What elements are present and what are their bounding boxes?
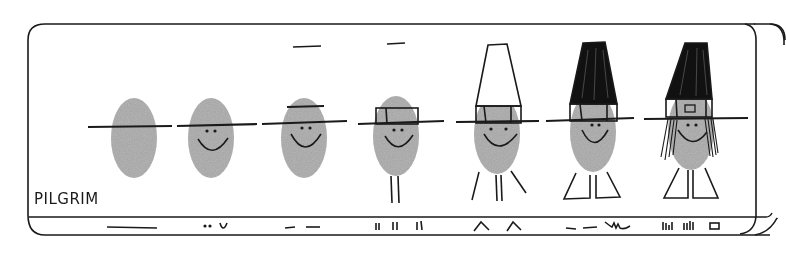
legend-step-2 [203,223,227,228]
legend-step-5 [474,222,521,231]
step-1-figure [111,98,157,178]
step-6-shoes [564,172,620,199]
legend-strip [107,221,719,231]
step-7-shoes [664,168,718,198]
step-2-brim [177,124,257,126]
step-5-brim [456,121,539,122]
title-label: PILGRIM [34,188,99,208]
step-7-brim [644,118,748,119]
step-5-legs [472,171,526,201]
step-3-floating-line [293,46,321,47]
pilgrim-drawing-guide [0,0,786,259]
step-7-figure [668,90,714,170]
step-6-brim [546,118,634,121]
legend-step-7 [663,221,719,230]
step-3-crown-line [287,106,324,107]
legend-step-3 [285,227,320,228]
step-4-brim [358,121,444,124]
step-3-figure [281,98,327,178]
legend-step-6 [566,222,630,229]
step-4-floating-line [387,43,405,44]
frame-right-edge [740,24,756,234]
legend-step-1 [107,227,157,228]
legend-step-4 [376,221,422,230]
step-3-brim [262,121,347,124]
step-4-legs [391,176,399,203]
step-1-brim [88,126,172,127]
